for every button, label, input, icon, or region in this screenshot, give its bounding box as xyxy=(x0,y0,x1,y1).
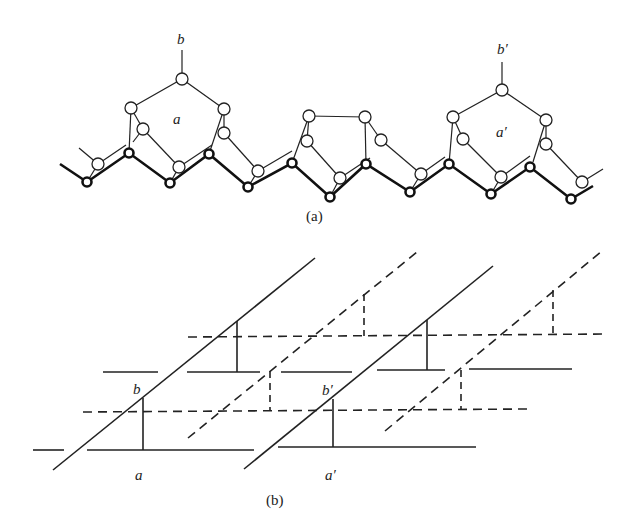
figure-canvas: b a b′ a′ (a) b xyxy=(0,0,635,530)
dashed-horizontal-upper xyxy=(188,334,608,337)
solid-diagonal-1 xyxy=(53,258,315,470)
label-a-prime: a′ xyxy=(325,467,337,483)
thick-chain xyxy=(60,153,593,199)
label-b-prime: b′ xyxy=(497,41,509,57)
label-a-prime: a′ xyxy=(496,124,508,140)
label-b: b xyxy=(133,381,141,397)
atoms-open xyxy=(92,73,588,188)
dashed-horizontal-lower xyxy=(83,409,527,412)
label-b: b xyxy=(177,31,185,47)
label-a: a xyxy=(135,467,143,483)
solid-diagonal-2 xyxy=(244,266,493,469)
caption-b: (b) xyxy=(266,492,284,509)
panel-a: b a b′ a′ (a) xyxy=(60,31,603,225)
panel-b: b a b′ a′ (b) xyxy=(33,251,608,509)
label-b-prime: b′ xyxy=(322,382,334,398)
dashed-diagonal-1 xyxy=(188,252,417,438)
dashed-diagonal-2 xyxy=(385,251,602,431)
label-a: a xyxy=(173,111,181,127)
caption-a: (a) xyxy=(306,208,323,225)
